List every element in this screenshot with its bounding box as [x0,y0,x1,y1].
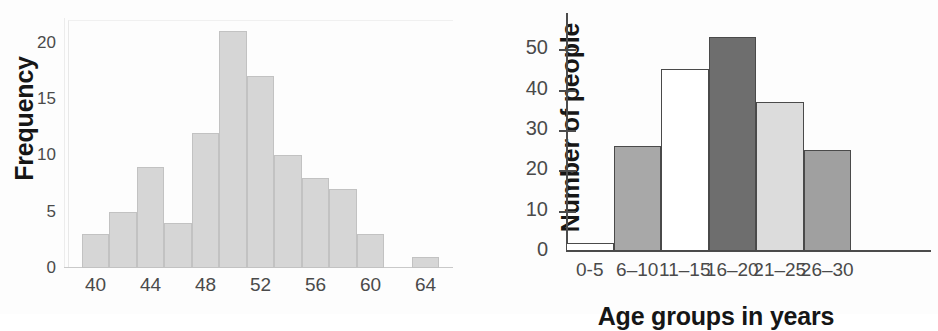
bar-chart-y-tick: 40 [518,77,548,100]
histogram-bar [329,189,357,268]
histogram-bar [109,212,137,268]
histogram-y-tick: 0 [22,258,56,278]
bar-chart-bar [661,69,709,251]
histogram-y-tick: 20 [22,33,56,53]
bar-chart-y-tick-mark [559,170,576,172]
histogram-bar [302,178,330,268]
histogram-x-tick: 48 [186,274,226,296]
histogram-bars [68,20,453,268]
histogram-x-tick: 60 [351,274,391,296]
bar-chart-figure: Number of people Age groups in years 010… [469,0,938,314]
bar-chart-bar [709,37,757,251]
bar-chart-plot-area: Number of people Age groups in years 010… [566,25,851,251]
bar-chart-y-axis-label: Number of people [556,23,585,232]
histogram-x-tick: 44 [131,274,171,296]
histogram-bar [274,155,302,268]
histogram-figure: Frequency 05101520 40444852566064 [0,0,469,314]
histogram-bar [82,234,110,268]
bar-chart-bar [756,102,804,251]
histogram-y-tick: 15 [22,89,56,109]
histogram-x-tick: 64 [406,274,446,296]
histogram-y-axis-line [64,18,65,268]
histogram-bar [219,31,247,268]
bar-chart-x-tick: 26–30 [796,259,860,281]
bar-chart-y-tick-mark [559,90,576,92]
bar-chart-y-tick-mark [559,130,576,132]
bar-chart-bar [804,150,852,251]
histogram-y-tick: 5 [22,202,56,222]
histogram-bar [247,76,275,268]
bar-chart-y-tick: 0 [518,238,548,261]
bar-chart-y-tick: 50 [518,36,548,59]
bar-chart-y-tick: 10 [518,198,548,221]
bar-chart-y-tick-mark [559,211,576,213]
histogram-y-tick: 10 [22,145,56,165]
bar-chart-y-tick-mark [559,49,576,51]
histogram-bar [357,234,385,268]
bar-chart-y-tick: 30 [518,117,548,140]
bar-chart-bar [566,243,614,251]
histogram-plot-area: 05101520 40444852566064 [68,20,453,268]
bar-chart-x-axis-label: Age groups in years [546,302,886,331]
histogram-x-tick: 56 [296,274,336,296]
histogram-bar [164,223,192,268]
histogram-bar [412,257,440,268]
bar-chart-bar [614,146,662,251]
bar-chart-y-tick: 20 [518,157,548,180]
histogram-bar [137,167,165,268]
histogram-x-tick: 52 [241,274,281,296]
histogram-x-tick: 40 [76,274,116,296]
histogram-bar [192,133,220,268]
